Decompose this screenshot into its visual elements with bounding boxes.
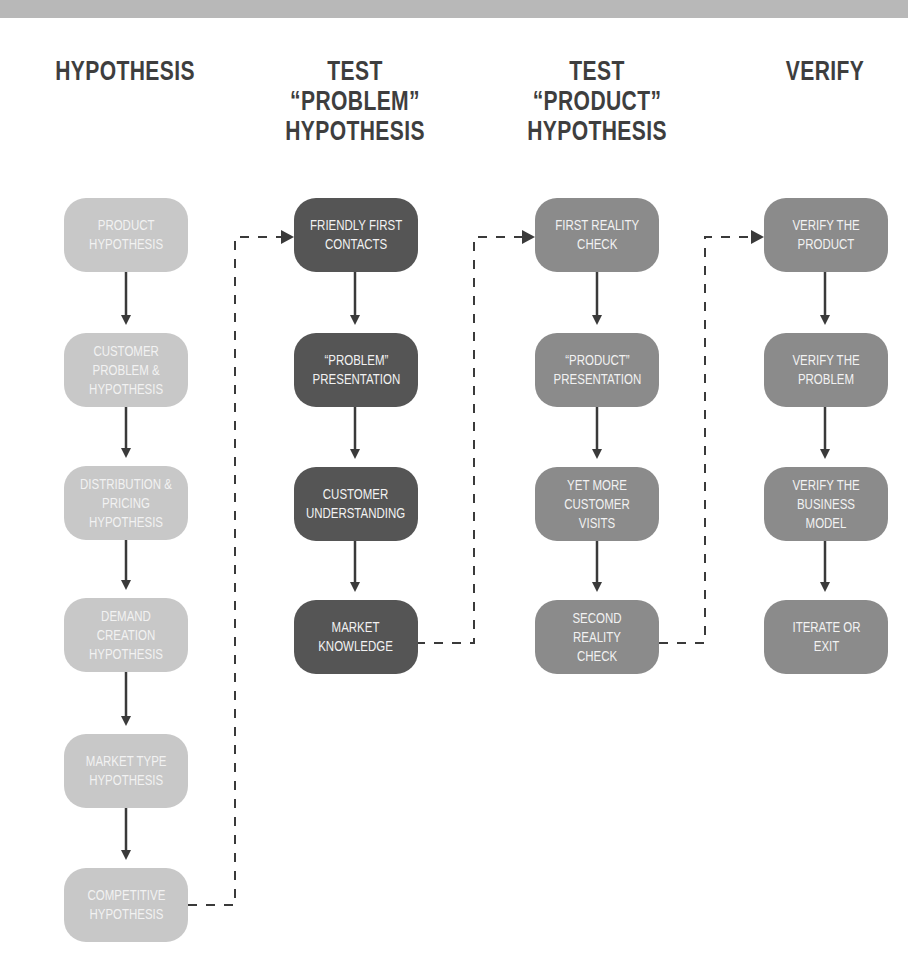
step-product-hypothesis: PRODUCT HYPOTHESIS [64, 198, 188, 272]
step-label: FRIENDLY FIRST CONTACTS [310, 216, 402, 254]
step-customer-problem-hypothesis: CUSTOMER PROBLEM & HYPOTHESIS [64, 333, 188, 407]
step-label: ITERATE OR EXIT [792, 618, 860, 656]
step-second-reality-check: SECOND REALITY CHECK [535, 600, 659, 674]
step-label: MARKET TYPE HYPOTHESIS [86, 752, 167, 790]
dashed-connector-1 [188, 237, 283, 905]
step-demand-creation-hypothesis: DEMAND CREATION HYPOTHESIS [64, 598, 188, 672]
step-label: VERIFY THE PROBLEM [792, 351, 859, 389]
top-banner [0, 0, 908, 18]
step-verify-the-business-model: VERIFY THE BUSINESS MODEL [764, 467, 888, 541]
step-label: CUSTOMER PROBLEM & HYPOTHESIS [89, 342, 163, 399]
arrowhead-icon [522, 230, 535, 244]
step-friendly-first-contacts: FRIENDLY FIRST CONTACTS [294, 198, 418, 272]
step-verify-the-product: VERIFY THE PRODUCT [764, 198, 888, 272]
step-label: SECOND REALITY CHECK [549, 609, 644, 666]
column-header-test-product: TEST “PRODUCT” HYPOTHESIS [515, 56, 679, 146]
step-label: “PROBLEM” PRESENTATION [312, 351, 400, 389]
step-first-reality-check: FIRST REALITY CHECK [535, 198, 659, 272]
step-label: DEMAND CREATION HYPOTHESIS [78, 607, 173, 664]
step-label: “PRODUCT” PRESENTATION [553, 351, 641, 389]
step-product-presentation: “PRODUCT” PRESENTATION [535, 333, 659, 407]
step-label: VERIFY THE BUSINESS MODEL [778, 476, 873, 533]
arrowhead-icon [751, 230, 764, 244]
step-problem-presentation: “PROBLEM” PRESENTATION [294, 333, 418, 407]
step-label: MARKET KNOWLEDGE [319, 618, 394, 656]
step-distribution-pricing-hypothesis: DISTRIBUTION & PRICING HYPOTHESIS [64, 466, 188, 540]
dashed-connector-3 [659, 237, 752, 643]
column-header-test-problem: TEST “PROBLEM” HYPOTHESIS [273, 56, 437, 146]
step-market-type-hypothesis: MARKET TYPE HYPOTHESIS [64, 734, 188, 808]
step-yet-more-customer-visits: YET MORE CUSTOMER VISITS [535, 467, 659, 541]
step-label: COMPETITIVE HYPOTHESIS [87, 886, 165, 924]
step-competitive-hypothesis: COMPETITIVE HYPOTHESIS [64, 868, 188, 942]
step-label: CUSTOMER UNDERSTANDING [306, 485, 405, 523]
dashed-connector-2 [416, 237, 523, 643]
column-header-verify: VERIFY [743, 56, 907, 86]
step-label: YET MORE CUSTOMER VISITS [549, 476, 644, 533]
step-verify-the-problem: VERIFY THE PROBLEM [764, 333, 888, 407]
arrowhead-icon [281, 230, 294, 244]
step-customer-understanding: CUSTOMER UNDERSTANDING [294, 467, 418, 541]
step-market-knowledge: MARKET KNOWLEDGE [294, 600, 418, 674]
step-label: DISTRIBUTION & PRICING HYPOTHESIS [80, 475, 172, 532]
step-label: VERIFY THE PRODUCT [792, 216, 859, 254]
step-label: FIRST REALITY CHECK [555, 216, 639, 254]
step-iterate-or-exit: ITERATE OR EXIT [764, 600, 888, 674]
column-header-hypothesis: HYPOTHESIS [43, 56, 207, 86]
step-label: PRODUCT HYPOTHESIS [89, 216, 163, 254]
